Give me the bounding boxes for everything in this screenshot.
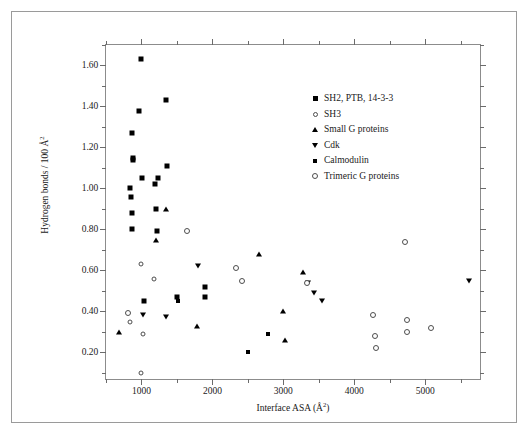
legend-item-label: Cdk: [324, 141, 340, 151]
y-tick-minor: [102, 168, 106, 169]
y-tick-major-right: [480, 147, 486, 148]
y-tick-minor-right: [480, 332, 484, 333]
data-point: [140, 331, 145, 336]
x-tick-minor: [177, 379, 178, 383]
data-point: [233, 265, 239, 271]
data-point: [370, 312, 376, 318]
y-tick-label: 0.20: [82, 347, 103, 357]
y-tick-minor: [102, 45, 106, 46]
legend-item: Trimeric G proteins: [306, 169, 399, 185]
x-tick-major-top: [212, 39, 213, 45]
legend-marker-glyph: [313, 112, 318, 117]
x-tick-minor: [248, 379, 249, 383]
data-point: [153, 206, 158, 211]
data-point: [246, 350, 250, 354]
data-point: [280, 309, 286, 314]
data-point: [128, 186, 133, 191]
x-tick-major-top: [425, 39, 426, 45]
data-point: [194, 323, 200, 328]
legend-item-label: Calmodulin: [324, 156, 369, 166]
data-point: [256, 251, 262, 256]
data-point: [319, 299, 325, 304]
y-tick-minor: [102, 86, 106, 87]
data-point: [139, 262, 144, 267]
x-tick-minor-top: [390, 41, 391, 45]
plot-area: 0.200.400.600.801.001.201.401.6010002000…: [105, 44, 481, 380]
data-point: [202, 295, 207, 300]
legend-marker-icon: [306, 112, 324, 117]
x-tick-label: 5000: [416, 386, 435, 396]
y-axis-title-superscript: 2: [38, 136, 45, 139]
x-tick-minor-top: [248, 41, 249, 45]
y-tick-major-right: [480, 352, 486, 353]
data-point: [402, 239, 408, 245]
data-point: [195, 264, 201, 269]
data-point: [152, 182, 157, 187]
data-point: [116, 329, 122, 334]
x-axis-title-text: Interface ASA (Å: [257, 403, 323, 413]
x-tick-minor-top: [319, 41, 320, 45]
data-point: [130, 157, 135, 162]
y-tick-label: 1.20: [82, 142, 103, 152]
y-tick-minor-right: [480, 86, 484, 87]
x-tick-minor: [319, 379, 320, 383]
legend-marker-icon: [306, 96, 324, 101]
x-tick-label: 2000: [203, 386, 222, 396]
y-tick-minor-right: [480, 291, 484, 292]
x-tick-minor: [461, 379, 462, 383]
data-point: [428, 325, 434, 331]
legend-marker-glyph: [313, 159, 317, 163]
x-tick-minor-top: [461, 41, 462, 45]
x-tick-major: [425, 379, 426, 385]
data-point: [373, 345, 379, 351]
data-point: [155, 229, 160, 234]
x-tick-label: 3000: [274, 386, 293, 396]
y-tick-minor: [102, 373, 106, 374]
x-tick-minor: [106, 379, 107, 383]
y-tick-major-right: [480, 65, 486, 66]
x-tick-major: [354, 379, 355, 385]
data-point: [130, 227, 135, 232]
y-tick-minor-right: [480, 373, 484, 374]
legend-marker-icon: [306, 173, 324, 179]
data-point: [163, 315, 169, 320]
data-point: [140, 176, 145, 181]
data-point: [128, 194, 133, 199]
y-tick-label: 0.60: [82, 265, 103, 275]
legend-marker-glyph: [312, 143, 318, 148]
data-point: [155, 176, 160, 181]
x-tick-major-top: [141, 39, 142, 45]
data-point: [130, 131, 135, 136]
y-tick-minor-right: [480, 209, 484, 210]
y-tick-minor: [102, 291, 106, 292]
y-tick-minor-right: [480, 250, 484, 251]
x-tick-major: [212, 379, 213, 385]
figure-root: 0.200.400.600.801.001.201.401.6010002000…: [0, 0, 531, 436]
data-point: [184, 228, 190, 234]
legend-item-label: Trimeric G proteins: [324, 172, 399, 182]
data-point: [300, 270, 306, 275]
y-tick-major-right: [480, 106, 486, 107]
data-point: [203, 284, 208, 289]
data-point: [140, 313, 146, 318]
y-tick-major-right: [480, 270, 486, 271]
x-tick-minor: [390, 379, 391, 383]
x-tick-major: [283, 379, 284, 385]
data-point: [311, 290, 317, 295]
data-point: [304, 280, 310, 286]
data-point: [404, 329, 410, 335]
data-point: [466, 278, 472, 283]
x-tick-major-top: [354, 39, 355, 45]
y-tick-major-right: [480, 188, 486, 189]
legend-marker-glyph: [313, 96, 318, 101]
chart-legend: SH2, PTB, 14-3-3SH3Small G proteinsCdkCa…: [306, 91, 399, 184]
y-axis-title-text: Hydrogen bonds / 100 Å: [40, 140, 50, 234]
legend-marker-glyph: [312, 173, 318, 179]
legend-marker-glyph: [312, 127, 318, 132]
x-tick-major-top: [283, 39, 284, 45]
data-point: [142, 299, 147, 304]
data-point: [125, 310, 131, 316]
y-tick-minor: [102, 209, 106, 210]
legend-item: SH3: [306, 107, 399, 123]
y-tick-major-right: [480, 311, 486, 312]
